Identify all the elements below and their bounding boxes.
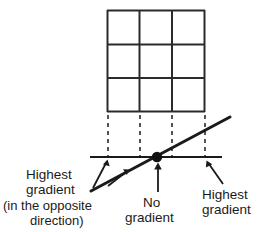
grid-3x3	[107, 10, 205, 112]
no-gradient-point	[152, 152, 162, 162]
label-left-line-3: direction)	[30, 213, 83, 228]
dashed-guides	[108, 115, 205, 156]
gradient-diagram: Highest gradient (in the opposite direct…	[0, 0, 259, 232]
label-center-line-1: gradient	[125, 210, 174, 225]
label-right-highest-gradient: Highest gradient	[202, 187, 251, 217]
arrow-left-secondary	[108, 169, 130, 186]
label-center-no-gradient: No gradient	[125, 195, 174, 225]
label-center-line-0: No	[143, 195, 160, 210]
label-left-line-0: Highest	[26, 167, 72, 182]
label-left-line-1: gradient	[26, 182, 75, 197]
label-left-line-2: (in the opposite	[3, 198, 92, 213]
label-left-highest-gradient: Highest gradient (in the opposite direct…	[3, 167, 92, 228]
grid-background	[107, 10, 205, 112]
label-right-line-1: gradient	[202, 202, 251, 217]
arrow-head-center	[154, 163, 162, 170]
diagram-canvas: Highest gradient (in the opposite direct…	[0, 0, 259, 232]
arrow-right-highest-gradient	[206, 161, 223, 185]
arrow-center-no-gradient	[154, 163, 162, 193]
label-right-line-0: Highest	[202, 187, 248, 202]
